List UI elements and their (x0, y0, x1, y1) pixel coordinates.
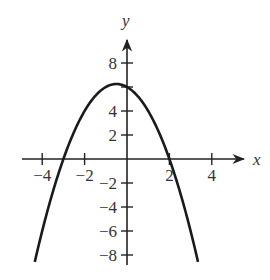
y-tick-label: −8 (99, 246, 117, 265)
x-tick-label: −2 (76, 166, 94, 185)
y-tick-label: −4 (99, 198, 118, 217)
y-tick-label: 8 (109, 54, 118, 73)
parabola-plot: −4−224 842−2−4−6−8 x y (0, 0, 270, 280)
y-tick-label: 2 (109, 126, 118, 145)
y-tick-label: −6 (99, 222, 117, 241)
x-tick-label: 4 (208, 166, 217, 185)
y-tick-label: −2 (99, 174, 117, 193)
x-axis-label: x (252, 150, 261, 169)
y-tick-label: 4 (109, 102, 118, 121)
x-tick-label: −4 (33, 166, 52, 185)
y-axis-label: y (120, 11, 130, 30)
